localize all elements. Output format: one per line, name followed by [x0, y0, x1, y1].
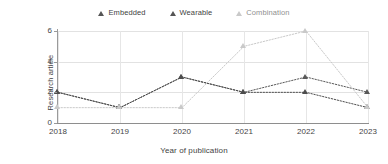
data-point-marker — [240, 89, 246, 94]
x-tick-label: 2021 — [224, 128, 264, 136]
data-point-marker — [302, 28, 308, 33]
data-point-marker — [364, 104, 370, 109]
x-tick-label: 2022 — [286, 128, 326, 136]
data-point-marker — [54, 89, 60, 94]
line-chart: Embedded Wearable Combination 0246 20182… — [0, 0, 388, 164]
data-point-marker — [116, 104, 122, 109]
x-axis-title: Year of publication — [0, 146, 388, 155]
y-axis-title: Research article — [46, 38, 55, 128]
data-point-marker — [54, 104, 60, 109]
x-tick-label: 2018 — [38, 128, 78, 136]
x-tick-label: 2023 — [348, 128, 388, 136]
series-line-embedded — [58, 77, 368, 108]
data-point-marker — [178, 104, 184, 109]
series-line-wearable — [58, 77, 368, 108]
data-point-marker — [178, 74, 184, 79]
data-point-marker — [302, 74, 308, 79]
data-point-marker — [302, 89, 308, 94]
x-tick-label: 2019 — [100, 128, 140, 136]
data-point-marker — [364, 89, 370, 94]
y-axis-title-wrapper: Research article — [15, 34, 29, 124]
x-tick-label: 2020 — [162, 128, 202, 136]
data-point-marker — [240, 43, 246, 48]
series-lines-layer — [0, 0, 388, 164]
